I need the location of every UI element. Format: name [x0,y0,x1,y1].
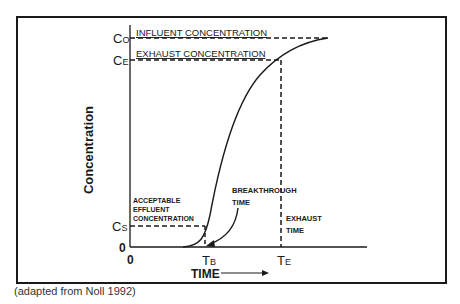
acceptable-label-line1: ACCEPTABLE [133,197,181,204]
breakthrough-arrowhead [206,240,215,247]
figure-caption: (adapted from Noll 1992) [14,285,136,297]
y-axis-title: Concentration [81,106,96,194]
acceptable-label-line2: EFFLUENT [133,206,170,213]
tick-tb: TB [202,253,216,268]
exhaust-time-label-line2: TIME [286,226,304,235]
breakthrough-label-line1: BREAKTHROUGH [232,186,297,195]
influent-concentration-label: INFLUENT CONCENTRATION [136,27,267,38]
exhaust-concentration-label: EXHAUST CONCENTRATION [136,48,266,59]
tick-cs: CS [112,219,127,234]
exhaust-time-label-line1: EXHAUST [286,214,322,223]
breakthrough-pointer [210,208,238,244]
tick-c0: CO [113,31,129,46]
tick-y-zero: 0 [119,241,126,255]
x-axis-title: TIME [191,267,220,281]
time-arrow-icon [262,270,269,276]
tick-ce: CE [113,53,128,68]
acceptable-label-line3: CONCENTRATION [133,215,194,222]
breakthrough-curve-diagram: Concentration CO CE CS 0 0 TB TE TIME IN… [0,0,460,304]
tick-x-zero: 0 [127,253,134,267]
tick-te: TE [277,253,291,268]
breakthrough-label-line2: TIME [232,198,250,207]
